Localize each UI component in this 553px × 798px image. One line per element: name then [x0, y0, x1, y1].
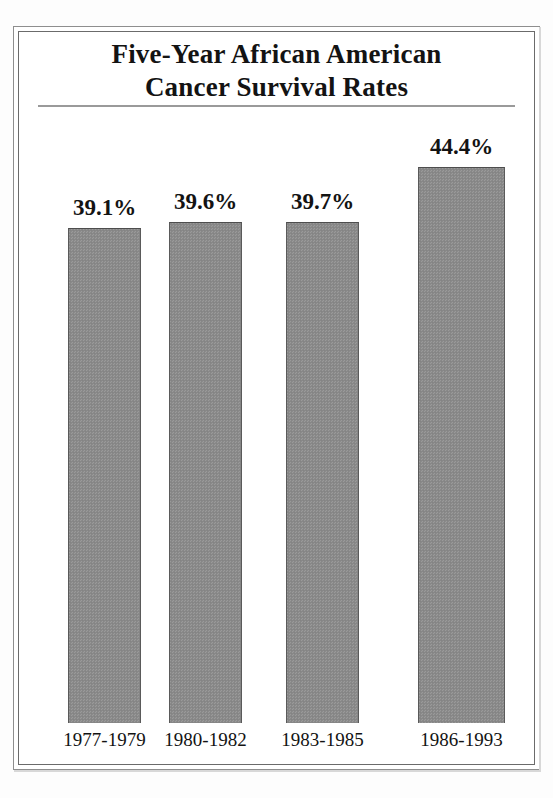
- bar-plot-area: 39.1%1977-197939.6%1980-198239.7%1983-19…: [19, 32, 534, 764]
- bar-rect: [286, 222, 359, 723]
- bar-value-label: 39.1%: [73, 196, 136, 219]
- chart-plate: Five-Year African American Cancer Surviv…: [19, 32, 534, 764]
- bar-rect: [418, 167, 505, 723]
- scanned-chart-page: Five-Year African American Cancer Surviv…: [0, 0, 553, 798]
- bar-value-label: 39.6%: [174, 190, 237, 213]
- x-axis-category-label: 1986-1993: [420, 729, 502, 751]
- bar-group: 39.1%1977-1979: [68, 32, 141, 764]
- bar-value-label: 44.4%: [430, 135, 493, 158]
- bar-value-label: 39.7%: [291, 190, 354, 213]
- bar-group: 39.7%1983-1985: [286, 32, 359, 764]
- x-axis-category-label: 1980-1982: [164, 729, 246, 751]
- bar-rect: [169, 222, 242, 723]
- bar-rect: [68, 228, 141, 723]
- x-axis-category-label: 1983-1985: [281, 729, 363, 751]
- x-axis-category-label: 1977-1979: [63, 729, 145, 751]
- bar-group: 44.4%1986-1993: [418, 32, 505, 764]
- bar-group: 39.6%1980-1982: [169, 32, 242, 764]
